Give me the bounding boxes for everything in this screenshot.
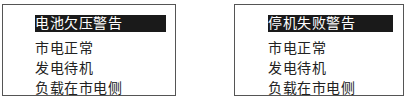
lcd-screen-stop-failure: 停机失败警告 市电正常 发电待机 负载在市电侧 — [234, 4, 404, 96]
status-item-generator-standby[interactable]: 发电待机 — [35, 60, 93, 77]
alarm-item-highlighted[interactable]: 电池欠压警告 — [35, 15, 166, 32]
status-item-load-on-mains[interactable]: 负载在市电侧 — [35, 80, 122, 97]
status-item-mains-normal[interactable]: 市电正常 — [35, 40, 93, 57]
alarm-item-highlighted[interactable]: 停机失败警告 — [268, 15, 393, 32]
status-item-generator-standby[interactable]: 发电待机 — [268, 60, 326, 77]
status-item-mains-normal[interactable]: 市电正常 — [268, 40, 326, 57]
lcd-screen-battery-undervoltage: 电池欠压警告 市电正常 发电待机 负载在市电侧 — [2, 4, 176, 96]
status-item-load-on-mains[interactable]: 负载在市电侧 — [268, 80, 355, 97]
